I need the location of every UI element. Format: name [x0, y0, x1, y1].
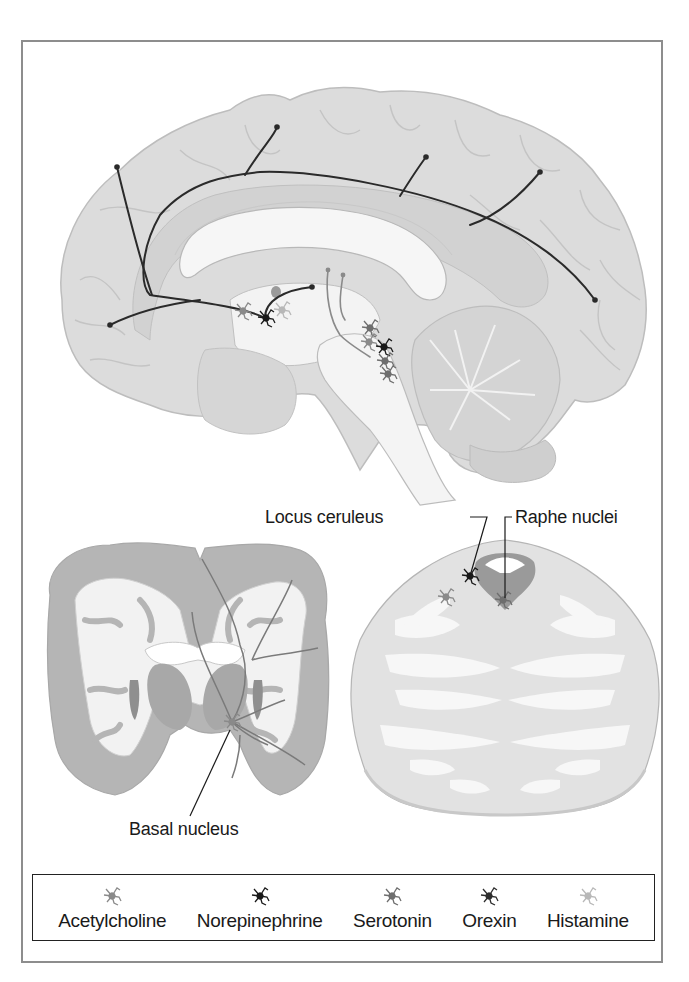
legend-item-acetylcholine: Acetylcholine	[58, 883, 166, 932]
label-raphe-nuclei: Raphe nuclei	[515, 507, 618, 528]
label-basal-nucleus: Basal nucleus	[129, 819, 238, 840]
neuron-histamine-icon	[575, 883, 601, 909]
legend-label: Norepinephrine	[197, 910, 323, 932]
neuron-norepinephrine-icon	[247, 883, 273, 909]
neuron-orexin-icon	[476, 883, 502, 909]
legend-item-serotonin: Serotonin	[353, 883, 432, 932]
label-locus-ceruleus: Locus ceruleus	[265, 507, 383, 528]
legend-item-histamine: Histamine	[547, 883, 629, 932]
legend-label: Serotonin	[353, 910, 432, 932]
legend-label: Histamine	[547, 910, 629, 932]
legend-label: Acetylcholine	[58, 910, 166, 932]
neuron-acetylcholine-icon	[99, 883, 125, 909]
coronal-brain-section	[48, 543, 329, 816]
legend: Acetylcholine Norepinephrine Serotonin O…	[32, 874, 655, 941]
legend-label: Orexin	[462, 910, 516, 932]
legend-item-norepinephrine: Norepinephrine	[197, 883, 323, 932]
neuron-serotonin-icon	[379, 883, 405, 909]
brain-illustration	[0, 0, 689, 982]
brainstem-transverse-section	[351, 517, 659, 815]
legend-item-orexin: Orexin	[462, 883, 516, 932]
sagittal-brain	[61, 87, 646, 505]
